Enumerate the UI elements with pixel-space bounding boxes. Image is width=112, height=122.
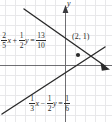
line-upper-arrowhead	[101, 63, 111, 71]
equals-sign: =	[57, 100, 65, 108]
numerator: 1	[19, 32, 25, 40]
numerator: 1	[29, 95, 35, 103]
denominator: 6	[64, 105, 70, 113]
denominator: 5	[1, 42, 7, 50]
operator-plus: +	[11, 37, 19, 45]
numerator: 1	[64, 95, 70, 103]
numerator: 2	[1, 32, 7, 40]
denominator: 2	[19, 42, 25, 50]
intersection-point-label: (2, 1)	[72, 33, 89, 41]
numerator: 1	[47, 95, 53, 103]
y-axis-label: y	[67, 0, 71, 8]
equals-sign: =	[29, 37, 37, 45]
equation-upper: 2 5 x + 1 2 y = 13 10	[1, 32, 46, 49]
denominator: 2	[47, 105, 53, 113]
denominator: 3	[29, 105, 35, 113]
equation-lower: 1 3 x − 1 2 y = 1 6	[29, 95, 70, 112]
coordinate-graph-figure: y (2, 1) 2 5 x + 1 2 y = 13 10 1 3 x −	[0, 0, 112, 122]
fraction-thirteen-tenths: 13 10	[36, 32, 46, 49]
numerator: 13	[36, 32, 46, 40]
fraction-one-sixth: 1 6	[64, 95, 70, 112]
operator-minus: −	[39, 100, 47, 108]
intersection-point-marker	[76, 53, 80, 57]
denominator: 10	[36, 42, 46, 50]
